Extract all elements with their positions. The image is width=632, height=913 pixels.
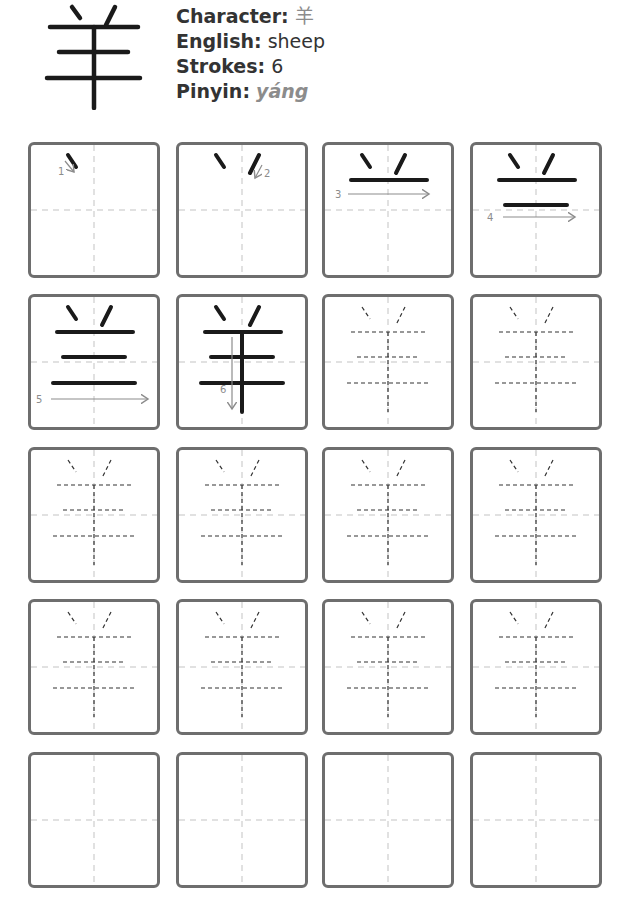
trace-cell — [470, 447, 602, 583]
blank-practice-cell[interactable] — [28, 752, 160, 888]
cell-drawing — [31, 755, 157, 885]
cell-drawing — [473, 602, 599, 732]
cell-drawing — [31, 602, 157, 732]
cell-drawing: 4 — [473, 145, 599, 275]
svg-text:1: 1 — [58, 166, 64, 177]
info-character-value: 羊 — [295, 5, 314, 27]
cell-drawing: 1 — [31, 145, 157, 275]
trace-cell — [28, 447, 160, 583]
cell-drawing: 2 — [179, 145, 305, 275]
stroke-order-cell-6: 6 — [176, 294, 308, 430]
cell-drawing: 3 — [325, 145, 451, 275]
cell-drawing — [179, 755, 305, 885]
cell-drawing — [179, 602, 305, 732]
info-pinyin-row: Pinyin: yáng — [176, 79, 325, 104]
blank-practice-cell[interactable] — [470, 752, 602, 888]
cell-drawing — [473, 755, 599, 885]
cell-drawing — [179, 450, 305, 580]
blank-practice-cell[interactable] — [322, 752, 454, 888]
info-label: Strokes — [176, 55, 258, 77]
stroke-order-cell-4: 4 — [470, 142, 602, 278]
svg-text:4: 4 — [487, 212, 493, 223]
cell-drawing: 5 — [31, 297, 157, 427]
svg-text:2: 2 — [264, 168, 270, 179]
info-label: English — [176, 30, 254, 52]
cell-drawing — [473, 297, 599, 427]
trace-cell — [176, 599, 308, 735]
stroke-order-cell-1: 1 — [28, 142, 160, 278]
trace-cell — [470, 294, 602, 430]
character-glyph-large — [44, 2, 148, 110]
cell-drawing — [325, 450, 451, 580]
trace-cell — [322, 294, 454, 430]
cell-drawing — [325, 297, 451, 427]
cell-drawing — [31, 450, 157, 580]
blank-practice-cell[interactable] — [176, 752, 308, 888]
trace-cell — [470, 599, 602, 735]
trace-cell — [28, 599, 160, 735]
character-info: Character: 羊 English: sheep Strokes: 6 P… — [176, 4, 325, 104]
info-pinyin-value: yáng — [256, 80, 308, 102]
stroke-order-cell-3: 3 — [322, 142, 454, 278]
stroke-order-cell-5: 5 — [28, 294, 160, 430]
info-label: Pinyin — [176, 80, 242, 102]
info-strokes-value: 6 — [271, 55, 283, 77]
info-label: Character — [176, 5, 281, 27]
cell-drawing — [325, 755, 451, 885]
svg-text:6: 6 — [220, 384, 226, 395]
info-character-row: Character: 羊 — [176, 4, 325, 29]
info-english-value: sheep — [268, 30, 325, 52]
trace-cell — [176, 447, 308, 583]
info-english-row: English: sheep — [176, 29, 325, 54]
info-strokes-row: Strokes: 6 — [176, 54, 325, 79]
trace-cell — [322, 599, 454, 735]
cell-drawing — [325, 602, 451, 732]
svg-text:5: 5 — [36, 394, 42, 405]
trace-cell — [322, 447, 454, 583]
svg-text:3: 3 — [335, 189, 341, 200]
cell-drawing: 6 — [179, 297, 305, 427]
stroke-order-cell-2: 2 — [176, 142, 308, 278]
cell-drawing — [473, 450, 599, 580]
